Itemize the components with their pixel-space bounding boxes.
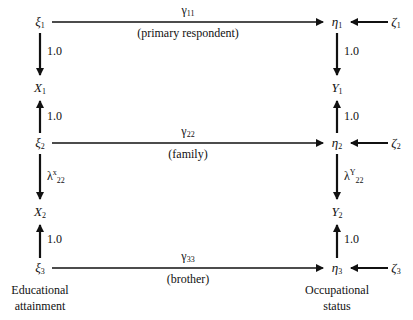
node-zeta1: ζ1 [391, 14, 400, 30]
path-label-gamma33: γ33 [181, 249, 194, 264]
loading-xi1-X1: 1.0 [47, 44, 62, 59]
loading-eta2-Y1: 1.0 [344, 109, 359, 124]
node-Y1: Y1 [331, 80, 342, 96]
node-eta1: η1 [332, 14, 342, 30]
node-zeta2: ζ2 [391, 135, 400, 151]
node-eta3: η3 [332, 260, 342, 276]
loading-xi2-X1: 1.0 [47, 109, 62, 124]
path-desc-family: (family) [168, 147, 207, 162]
loading-eta3-Y2: 1.0 [344, 232, 359, 247]
loading-xi2-X2: λx22 [47, 168, 65, 185]
loading-xi3-X2: 1.0 [47, 232, 62, 247]
path-desc-brother: (brother) [167, 272, 210, 287]
loading-eta2-Y2: λY22 [344, 168, 364, 185]
node-X1: X1 [34, 80, 46, 96]
path-label-gamma22: γ22 [181, 124, 194, 139]
node-xi2: ξ2 [35, 135, 45, 151]
node-zeta3: ζ3 [391, 260, 400, 276]
path-label-gamma11: γ11 [181, 3, 194, 18]
node-xi1: ξ1 [35, 14, 45, 30]
caption-occupational-status: Occupational status [305, 282, 369, 314]
node-Y2: Y2 [331, 204, 342, 220]
caption-educational-attainment: Educational attainment [11, 282, 68, 314]
node-xi3: ξ3 [35, 260, 45, 276]
node-eta2: η2 [332, 135, 342, 151]
loading-eta1-Y1: 1.0 [344, 44, 359, 59]
path-desc-primary-respondent: (primary respondent) [137, 26, 239, 41]
node-X2: X2 [34, 204, 46, 220]
